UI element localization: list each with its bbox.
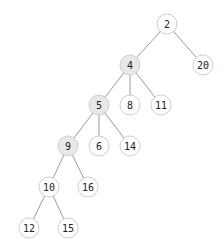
node-label: 11 bbox=[155, 100, 167, 111]
tree-node-11: 11 bbox=[151, 95, 171, 115]
tree-node-10: 10 bbox=[39, 177, 59, 197]
tree-node-12: 12 bbox=[19, 218, 39, 238]
nodes-layer: 24205811961410161215 bbox=[19, 14, 213, 238]
edges-layer bbox=[29, 24, 203, 228]
tree-node-9: 9 bbox=[58, 136, 78, 156]
node-label: 5 bbox=[96, 100, 102, 111]
tree-node-14: 14 bbox=[120, 136, 140, 156]
node-label: 4 bbox=[127, 60, 133, 71]
node-label: 12 bbox=[23, 223, 35, 234]
node-label: 20 bbox=[197, 60, 209, 71]
tree-node-5: 5 bbox=[89, 95, 109, 115]
tree-node-8: 8 bbox=[120, 95, 140, 115]
node-label: 6 bbox=[96, 141, 102, 152]
node-label: 15 bbox=[62, 223, 74, 234]
tree-node-4: 4 bbox=[120, 55, 140, 75]
tree-node-16: 16 bbox=[78, 177, 98, 197]
node-label: 10 bbox=[43, 182, 55, 193]
node-label: 16 bbox=[82, 182, 94, 193]
node-label: 8 bbox=[127, 100, 133, 111]
tree-diagram: 24205811961410161215 bbox=[0, 0, 224, 251]
tree-node-20: 20 bbox=[193, 55, 213, 75]
node-label: 2 bbox=[164, 19, 170, 30]
node-label: 14 bbox=[124, 141, 136, 152]
tree-node-2: 2 bbox=[157, 14, 177, 34]
tree-node-15: 15 bbox=[58, 218, 78, 238]
node-label: 9 bbox=[65, 141, 71, 152]
tree-node-6: 6 bbox=[89, 136, 109, 156]
